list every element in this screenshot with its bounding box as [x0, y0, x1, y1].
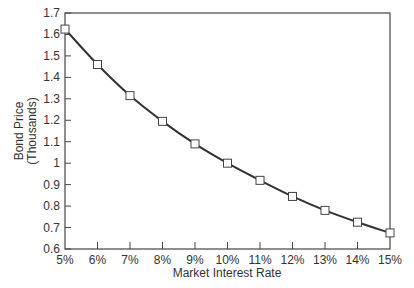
x-tick-label: 5%	[56, 253, 74, 267]
y-axis-label-main: Bond Price	[12, 101, 26, 160]
square-marker-icon	[256, 176, 264, 184]
x-tick-label: 9%	[186, 253, 204, 267]
data-markers	[61, 25, 394, 237]
bond-price-chart: 0.60.70.80.911.11.21.31.41.51.61.7 5%6%7…	[0, 0, 414, 288]
x-axis-label: Market Interest Rate	[173, 266, 282, 280]
y-tick-label: 1.3	[43, 92, 60, 106]
bond-price-line	[65, 29, 390, 233]
square-marker-icon	[386, 229, 394, 237]
square-marker-icon	[159, 117, 167, 125]
plot-frame	[65, 13, 390, 249]
square-marker-icon	[94, 60, 102, 68]
y-tick-label: 1.7	[43, 6, 60, 20]
square-marker-icon	[321, 206, 329, 214]
x-tick-label: 11%	[248, 253, 271, 267]
y-tick-label: 1.4	[43, 70, 60, 84]
y-tick-label: 1	[53, 156, 60, 170]
square-marker-icon	[224, 159, 232, 167]
y-tick-label: 1.6	[43, 27, 60, 41]
x-tick-label: 14%	[345, 253, 369, 267]
y-tick-label: 1.1	[43, 135, 60, 149]
square-marker-icon	[126, 92, 134, 100]
x-tick-label: 8%	[154, 253, 172, 267]
y-axis-label: Bond Price (Thousands)	[12, 97, 39, 164]
y-axis-ticks: 0.60.70.80.911.11.21.31.41.51.61.7	[43, 6, 71, 256]
square-marker-icon	[354, 218, 362, 226]
x-tick-label: 6%	[89, 253, 107, 267]
y-axis-label-sub: (Thousands)	[25, 97, 39, 164]
y-tick-label: 0.9	[43, 178, 60, 192]
y-tick-label: 0.7	[43, 221, 60, 235]
y-tick-label: 1.2	[43, 113, 60, 127]
y-tick-label: 0.8	[43, 199, 60, 213]
square-marker-icon	[191, 140, 199, 148]
x-tick-label: 13%	[313, 253, 337, 267]
x-tick-label: 10%	[215, 253, 239, 267]
y-tick-label: 1.5	[43, 49, 60, 63]
square-marker-icon	[61, 25, 69, 33]
x-tick-label: 12%	[280, 253, 304, 267]
x-tick-label: 15%	[378, 253, 402, 267]
x-axis-ticks: 5%6%7%8%9%10%11%12%13%14%15%	[56, 242, 402, 267]
square-marker-icon	[289, 192, 297, 200]
x-tick-label: 7%	[121, 253, 139, 267]
